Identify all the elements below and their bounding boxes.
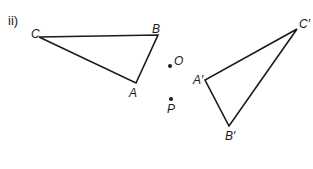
vertex-label-a: A (128, 86, 137, 100)
point-label-o: O (174, 54, 183, 68)
vertex-label-c-prime: C′ (299, 17, 311, 31)
transformation-diagram: ii) C B A O P C′ A′ B′ (0, 0, 313, 169)
vertex-label-a-prime: A′ (192, 73, 204, 87)
part-label: ii) (8, 13, 18, 28)
vertex-label-b-prime: B′ (225, 129, 236, 143)
point-o (168, 64, 172, 68)
point-label-p: P (167, 102, 175, 116)
triangle-abc-prime (205, 29, 297, 126)
point-p (169, 97, 173, 101)
vertex-label-b: B (152, 22, 160, 36)
vertex-label-c: C (31, 27, 40, 41)
triangle-abc (39, 35, 158, 83)
